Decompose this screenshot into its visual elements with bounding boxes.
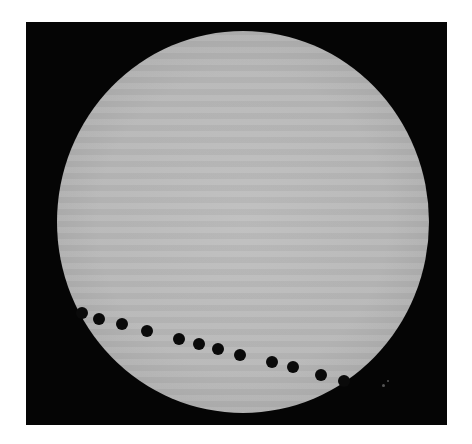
planet-dot [116,318,128,330]
planet-dot [193,338,205,350]
planet-dot [287,361,299,373]
planet-dot [76,307,88,319]
planet-dot [141,325,153,337]
planet-dot [338,375,350,387]
planet-dot [315,369,327,381]
planet-dot [212,343,224,355]
photo-frame [26,22,447,425]
noise-speck [382,384,385,387]
planet-dot [173,333,185,345]
noise-speck [387,380,389,382]
planet-dot [266,356,278,368]
planet-dot [234,349,246,361]
planet-dot [93,313,105,325]
